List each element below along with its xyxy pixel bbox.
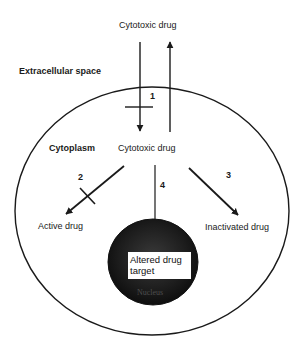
pathway-number-2: 2	[78, 173, 83, 182]
pathway-number-4: 4	[160, 181, 165, 190]
label-target-line2: target	[130, 265, 188, 276]
diagram-canvas	[0, 0, 303, 351]
label-extracellular-space: Extracellular space	[19, 67, 101, 76]
pathway-number-3: 3	[226, 171, 231, 180]
label-inactivated-drug: Inactivated drug	[205, 223, 269, 232]
label-drug-inside: Cytotoxic drug	[118, 144, 176, 153]
activation-arrow	[66, 166, 124, 214]
label-active-drug: Active drug	[38, 222, 83, 231]
label-cytoplasm: Cytoplasm	[49, 144, 95, 153]
pathway-number-1: 1	[150, 92, 155, 101]
label-drug-outside: Cytotoxic drug	[119, 21, 177, 30]
altered-drug-target-box: Altered drug target	[128, 252, 191, 279]
label-nucleus: Nucleus	[137, 289, 163, 297]
label-target-line1: Altered drug	[130, 254, 188, 265]
